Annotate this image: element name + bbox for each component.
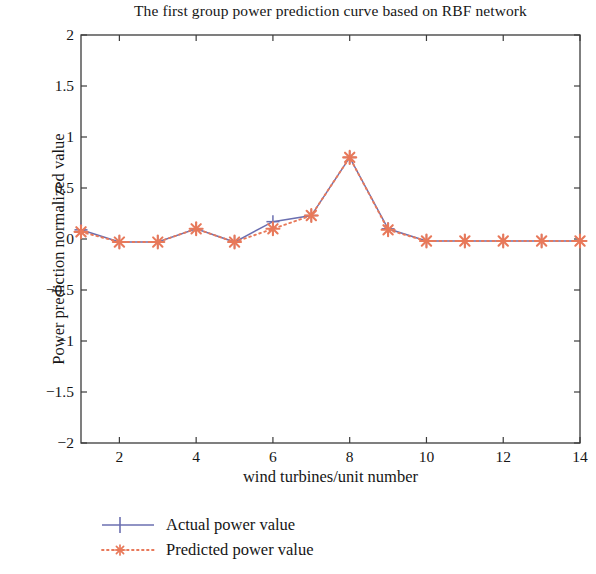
series-predicted xyxy=(75,151,587,249)
x-tick-label: 8 xyxy=(330,448,370,466)
legend-label-predicted: Predicted power value xyxy=(166,540,314,560)
legend-swatch-predicted xyxy=(100,539,156,561)
x-tick-label: 12 xyxy=(483,448,523,466)
x-tick-label: 4 xyxy=(176,448,216,466)
chart-legend: Actual power value Predicted power value xyxy=(100,512,500,562)
legend-label-actual: Actual power value xyxy=(166,515,295,535)
y-tick-label: 1 xyxy=(28,128,74,146)
y-tick-label: −1 xyxy=(28,332,74,350)
y-tick-label: 0.5 xyxy=(28,179,74,197)
y-tick-label: −1.5 xyxy=(28,383,74,401)
x-tick-label: 10 xyxy=(406,448,446,466)
x-tick-label: 14 xyxy=(560,448,596,466)
x-tick-label: 2 xyxy=(99,448,139,466)
y-tick-label: 2 xyxy=(28,26,74,44)
legend-swatch-actual xyxy=(100,514,156,536)
legend-item-predicted: Predicted power value xyxy=(100,537,500,562)
plot-area xyxy=(0,0,596,574)
x-axis-label: wind turbines/unit number xyxy=(81,467,580,487)
series-actual xyxy=(75,151,587,249)
data-series xyxy=(75,151,587,249)
y-tick-label: −0.5 xyxy=(28,281,74,299)
legend-item-actual: Actual power value xyxy=(100,512,500,537)
y-tick-label: −2 xyxy=(28,434,74,452)
y-tick-label: 1.5 xyxy=(28,77,74,95)
chart-title: The first group power prediction curve b… xyxy=(81,2,580,20)
y-tick-label: 0 xyxy=(28,230,74,248)
y-axis-tick-labels: 21.510.50−0.5−1−1.5−2 xyxy=(26,0,74,574)
x-tick-label: 6 xyxy=(253,448,293,466)
chart-figure: The first group power prediction curve b… xyxy=(0,0,596,574)
